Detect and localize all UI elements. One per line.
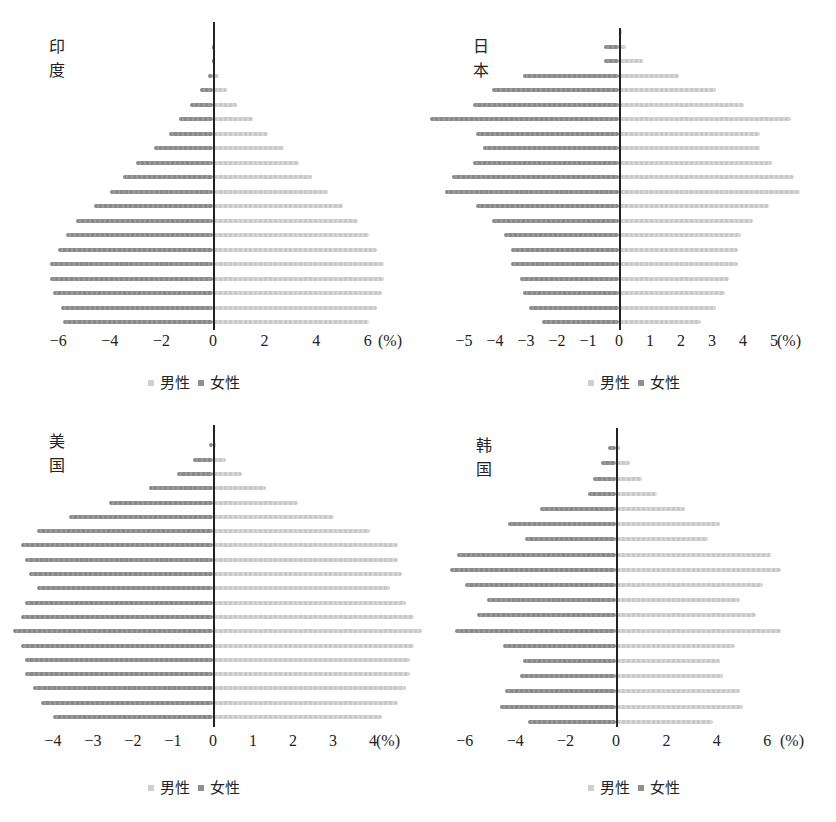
female-bar	[604, 45, 620, 49]
female-bar	[190, 103, 213, 107]
legend-male-swatch	[588, 785, 594, 791]
female-bar	[200, 88, 213, 92]
male-bar	[214, 103, 237, 107]
male-bar	[214, 74, 219, 78]
female-bar	[21, 543, 213, 547]
zero-axis	[213, 22, 215, 330]
female-bar	[523, 74, 619, 78]
legend-female-label: 女性	[650, 374, 680, 392]
female-bar	[136, 161, 213, 165]
country-title: 韩国	[476, 432, 492, 480]
female-bar	[452, 175, 619, 179]
country-title: 印度	[49, 33, 65, 81]
female-bar	[542, 320, 620, 324]
male-bar	[620, 262, 738, 266]
x-tick-label: 2	[677, 332, 685, 350]
female-bar	[511, 248, 620, 252]
x-tick-label: 6	[364, 332, 372, 350]
x-tick-label: −2	[153, 332, 170, 350]
female-bar	[13, 629, 213, 633]
male-bar	[620, 291, 725, 295]
female-bar	[588, 492, 616, 496]
female-bar	[33, 686, 213, 690]
x-tick-label: 1	[646, 332, 654, 350]
male-bar	[620, 59, 643, 63]
female-bar	[154, 146, 213, 150]
male-bar	[214, 572, 402, 576]
male-bar	[214, 320, 369, 324]
female-bar	[457, 553, 616, 557]
female-bar	[503, 644, 616, 648]
legend-female-swatch	[198, 380, 204, 386]
male-bar	[620, 248, 738, 252]
x-unit-label: (%)	[780, 732, 804, 750]
female-bar	[61, 306, 213, 310]
female-bar	[508, 522, 616, 526]
legend-female-label: 女性	[650, 779, 680, 797]
male-bar	[620, 161, 772, 165]
female-bar	[505, 689, 616, 693]
x-tick-label: −6	[456, 732, 473, 750]
male-bar	[214, 161, 299, 165]
male-bar	[214, 601, 406, 605]
female-bar	[476, 204, 619, 208]
male-bar	[214, 219, 358, 223]
female-bar	[523, 659, 616, 663]
male-bar	[617, 705, 743, 709]
x-tick-label: 3	[329, 732, 337, 750]
x-tick-label: 2	[662, 732, 670, 750]
x-tick-label: −6	[50, 332, 67, 350]
male-bar	[214, 558, 398, 562]
female-bar	[430, 117, 619, 121]
female-bar	[63, 320, 213, 324]
female-bar	[465, 583, 616, 587]
male-bar	[214, 615, 414, 619]
female-bar	[169, 132, 213, 136]
legend-india: 男性女性	[148, 371, 240, 392]
female-bar	[37, 586, 213, 590]
female-bar	[58, 248, 213, 252]
female-bar	[608, 446, 616, 450]
x-tick-label: −1	[164, 732, 181, 750]
legend-male-label: 男性	[160, 374, 190, 392]
male-bar	[620, 45, 626, 49]
legend-female-label: 女性	[210, 779, 240, 797]
female-bar	[149, 486, 213, 490]
legend-japan: 男性女性	[588, 371, 680, 392]
female-bar	[473, 103, 619, 107]
male-bar	[620, 103, 744, 107]
legend-female-label: 女性	[210, 374, 240, 392]
x-tick-label: −4	[101, 332, 118, 350]
female-bar	[193, 458, 213, 462]
female-bar	[473, 161, 619, 165]
male-bar	[214, 701, 398, 705]
legend-male-label: 男性	[600, 374, 630, 392]
male-bar	[617, 507, 685, 511]
female-bar	[21, 644, 213, 648]
male-bar	[617, 522, 720, 526]
female-bar	[455, 629, 616, 633]
x-tick-label: 4	[739, 332, 747, 350]
male-bar	[617, 659, 720, 663]
male-bar	[214, 291, 382, 295]
male-bar	[617, 629, 781, 633]
male-bar	[617, 461, 630, 465]
female-bar	[487, 598, 616, 602]
x-tick-label: −3	[84, 732, 101, 750]
female-bar	[110, 190, 213, 194]
female-bar	[492, 219, 619, 223]
male-bar	[620, 320, 701, 324]
x-tick-label: −1	[579, 332, 596, 350]
male-bar	[214, 117, 253, 121]
male-bar	[214, 501, 298, 505]
female-bar	[69, 515, 213, 519]
female-bar	[37, 529, 213, 533]
female-bar	[529, 306, 619, 310]
x-tick-label: −4	[507, 732, 524, 750]
x-tick-label: −3	[517, 332, 534, 350]
male-bar	[214, 132, 268, 136]
zero-axis	[616, 428, 618, 727]
male-bar	[620, 88, 716, 92]
male-bar	[214, 146, 284, 150]
female-bar	[50, 277, 213, 281]
